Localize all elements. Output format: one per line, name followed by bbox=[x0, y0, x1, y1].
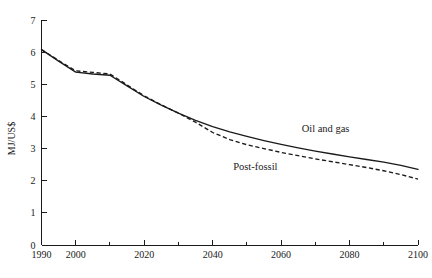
y-axis-title-text: MJ/US$ bbox=[6, 122, 17, 155]
y-axis-ticks: 01234567 bbox=[31, 15, 47, 251]
y-tick-label: 4 bbox=[31, 111, 36, 122]
y-tick-label: 5 bbox=[31, 79, 36, 90]
chart-container: 01234567 1990200020202040206020802100 MJ… bbox=[0, 0, 432, 278]
x-tick-label: 2060 bbox=[271, 249, 291, 260]
series-line-post-fossil bbox=[42, 50, 419, 180]
x-axis-ticks: 1990200020202040206020802100 bbox=[32, 240, 429, 260]
y-tick-label: 1 bbox=[31, 207, 36, 218]
series-label-post-fossil: Post-fossil bbox=[233, 161, 277, 172]
x-tick-label: 2080 bbox=[340, 249, 360, 260]
y-axis-title: MJ/US$ bbox=[6, 122, 17, 155]
line-chart: 01234567 1990200020202040206020802100 MJ… bbox=[0, 0, 432, 278]
x-tick-label: 2040 bbox=[203, 249, 223, 260]
x-tick-label: 1990 bbox=[32, 249, 52, 260]
series-line-oil-and-gas bbox=[42, 50, 419, 170]
series-annotations: Oil and gasPost-fossil bbox=[233, 123, 349, 172]
y-tick-label: 3 bbox=[31, 143, 36, 154]
series-label-oil-and-gas: Oil and gas bbox=[302, 123, 350, 134]
series-group bbox=[42, 50, 419, 180]
y-tick-label: 6 bbox=[31, 47, 36, 58]
y-tick-label: 2 bbox=[31, 175, 36, 186]
y-tick-label: 7 bbox=[31, 15, 36, 26]
x-tick-label: 2020 bbox=[134, 249, 154, 260]
x-tick-label: 2000 bbox=[66, 249, 86, 260]
x-tick-label: 2100 bbox=[408, 249, 428, 260]
